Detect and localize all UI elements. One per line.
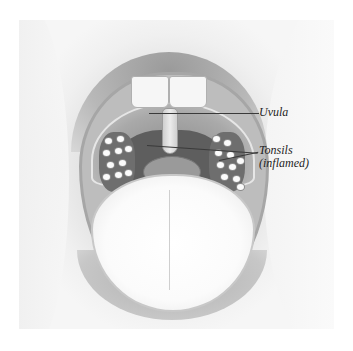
tonsil-spot — [224, 140, 231, 146]
tonsil-spot — [117, 136, 124, 142]
tooth-left — [131, 76, 169, 108]
tonsil-spot — [103, 150, 110, 156]
tonsils-inflamed-label: (inflamed) — [259, 157, 309, 169]
tonsil-spot — [229, 164, 236, 170]
tonsil-spot — [233, 176, 240, 182]
tonsil-spot — [221, 174, 228, 180]
tonsil-spot — [105, 138, 112, 144]
tonsil-spot — [237, 158, 244, 164]
tonsil-spot — [115, 148, 122, 154]
tonsil-spot — [213, 136, 220, 142]
uvula-leader-line — [149, 113, 259, 114]
tooth-right — [169, 76, 207, 108]
tonsil-spot — [107, 162, 114, 168]
tonsils-label: Tonsils — [259, 144, 293, 156]
tonsil-spot — [103, 174, 110, 180]
uvula-label: Uvula — [259, 106, 288, 118]
tonsil-spot — [125, 170, 132, 176]
tonsil-spot — [217, 162, 224, 168]
tonsil-spot — [115, 172, 122, 178]
tonsil-spot — [119, 160, 126, 166]
tonsil-spot — [125, 146, 132, 152]
tongue-midline — [169, 190, 170, 290]
illustration-frame: Uvula Tonsils (inflamed) — [19, 20, 334, 329]
tonsil-spot — [237, 184, 244, 190]
